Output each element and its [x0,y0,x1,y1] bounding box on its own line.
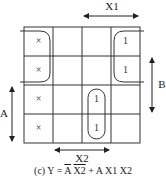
caption-plus: + [86,165,96,176]
cell-r0c3: 1 [123,35,128,46]
cell-r0c0: × [36,35,42,46]
cell-r3c0: × [36,122,42,133]
equation-caption: (c) Y = A X2 + A X1 X2 [0,165,166,176]
x1-label: X1 [105,0,118,12]
caption-term2: A X1 X2 [96,165,132,176]
cell-r1c0: × [36,64,42,75]
cell-r3c2: 1 [94,122,99,133]
x2-label: X2 [75,152,88,164]
a-label: A [0,107,8,119]
cell-r2c2: 1 [94,93,99,104]
b-label: B [158,78,165,90]
caption-prefix: (c) Y = [34,165,64,176]
cell-r1c3: 1 [123,64,128,75]
cell-r2c0: × [36,93,42,104]
caption-term1-b: X2 [73,165,85,176]
karnaugh-map-diagram: × 1 × 1 × 1 × 1 X1 B A X2 [0,0,166,178]
caption-term1-a: A [64,165,71,176]
